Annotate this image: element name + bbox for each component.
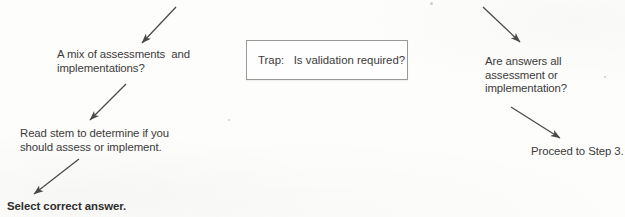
left-branch-question: A mix of assessments and implementations…	[57, 48, 190, 75]
left-branch-outcome: Select correct answer.	[7, 200, 126, 214]
scanned-flowchart-page: A mix of assessments and implementations…	[0, 0, 625, 217]
arrow-into-mix-question	[142, 7, 176, 43]
arrows-layer	[0, 0, 625, 217]
right-branch-outcome-prefix: Proceed to	[531, 145, 588, 157]
trap-callout-text: Trap: Is validation required?	[258, 53, 405, 67]
arrow-readstem-to-select	[34, 159, 79, 194]
trap-callout-box: Trap: Is validation required?	[246, 40, 408, 80]
right-branch-question: Are answers all assessment or implementa…	[485, 55, 567, 96]
right-branch-outcome-emphasis: Step 3.	[588, 145, 623, 157]
right-branch-outcome: Proceed to Step 3.	[531, 145, 624, 159]
arrow-into-areanswers	[483, 7, 520, 42]
left-branch-action: Read stem to determine if you should ass…	[20, 127, 169, 154]
arrow-areanswers-to-proceed	[511, 107, 560, 138]
arrow-mix-to-readstem	[90, 84, 126, 120]
